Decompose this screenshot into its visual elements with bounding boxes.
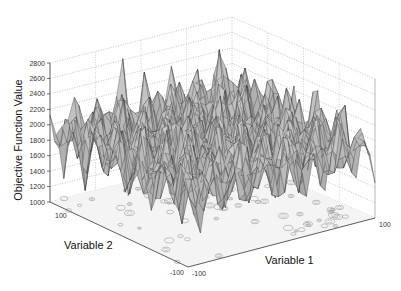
surface-plot: 1000120014001600180020002200240026002800… bbox=[0, 0, 401, 291]
x-axis-label: Variable 1 bbox=[265, 254, 314, 266]
svg-text:2800: 2800 bbox=[29, 60, 45, 67]
z-axis-ticks: 1000120014001600180020002200240026002800 bbox=[29, 60, 50, 206]
svg-text:2400: 2400 bbox=[29, 90, 45, 97]
svg-text:1000: 1000 bbox=[29, 199, 45, 206]
svg-text:2000: 2000 bbox=[29, 121, 45, 128]
x-tick-min: -100 bbox=[192, 270, 206, 277]
svg-text:1600: 1600 bbox=[29, 152, 45, 159]
svg-text:2200: 2200 bbox=[29, 106, 45, 113]
z-axis-label: Objective Function Value bbox=[12, 79, 24, 200]
svg-text:1200: 1200 bbox=[29, 183, 45, 190]
svg-text:1800: 1800 bbox=[29, 137, 45, 144]
y-tick-max: 100 bbox=[55, 212, 67, 219]
svg-text:1400: 1400 bbox=[29, 168, 45, 175]
y-tick-min: -100 bbox=[170, 269, 184, 276]
y-axis-label: Variable 2 bbox=[64, 239, 113, 251]
svg-text:2600: 2600 bbox=[29, 75, 45, 82]
x-tick-max: 100 bbox=[379, 221, 391, 228]
